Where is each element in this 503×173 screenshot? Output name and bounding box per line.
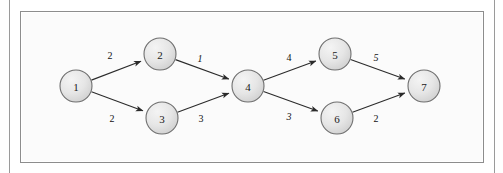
edge-1-to-3	[91, 92, 142, 111]
edge-4-to-6	[264, 92, 318, 111]
graph-node-6: 6	[321, 102, 353, 134]
nodes-layer: 1234567	[60, 38, 440, 134]
edge-5-to-7	[351, 60, 405, 79]
node-label-5: 5	[332, 49, 338, 61]
edge-weight-2-4: 1	[198, 53, 203, 64]
edge-weight-6-7: 2	[374, 113, 379, 124]
edge-4-to-5	[263, 61, 315, 80]
graph-node-3: 3	[146, 102, 178, 134]
edge-weight-1-2: 2	[108, 50, 113, 61]
graph-node-7: 7	[408, 70, 440, 102]
edge-weight-5-7: 5	[374, 52, 379, 63]
graph-node-5: 5	[319, 38, 351, 70]
node-label-7: 7	[421, 81, 427, 93]
graph-node-4: 4	[232, 70, 264, 102]
edge-3-to-4	[177, 93, 228, 112]
graph-node-2: 2	[144, 38, 176, 70]
graph-canvas: 1234567 22134352	[0, 0, 503, 173]
node-label-1: 1	[73, 81, 79, 93]
node-label-4: 4	[245, 81, 251, 93]
edge-weight-3-4: 3	[199, 113, 204, 124]
edge-6-to-7	[352, 93, 404, 112]
graph-node-1: 1	[60, 70, 92, 102]
node-label-3: 3	[159, 113, 165, 125]
node-label-2: 2	[157, 49, 163, 61]
figure-root: 1234567 22134352	[0, 0, 503, 173]
edge-weight-1-3: 2	[110, 113, 115, 124]
edge-1-to-2	[91, 61, 140, 80]
node-label-6: 6	[334, 113, 340, 125]
edge-weight-4-6: 3	[286, 111, 292, 122]
edge-weight-4-5: 4	[287, 52, 292, 63]
